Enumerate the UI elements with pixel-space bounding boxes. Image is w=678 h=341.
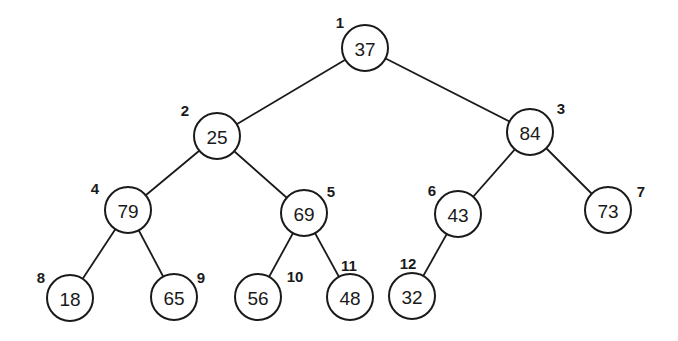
node-value: 32 [401,287,422,308]
tree-node-6: 436 [428,182,481,238]
tree-node-3: 843 [507,100,565,156]
node-value: 48 [339,288,360,309]
node-index-label: 3 [557,100,565,117]
node-value: 18 [59,289,80,310]
node-index-label: 8 [37,269,45,286]
node-index-label: 4 [91,180,100,197]
tree-edge [365,48,530,132]
node-index-label: 5 [327,183,335,200]
node-index-label: 6 [428,182,436,199]
tree-svg: 371252843794695436737188659561048113212 [0,0,678,341]
node-value: 65 [163,288,184,309]
node-index-label: 12 [400,255,417,272]
node-value: 79 [117,201,138,222]
tree-node-1: 371 [336,14,388,72]
tree-edge [217,48,365,136]
node-value: 73 [597,201,618,222]
node-index-label: 1 [336,14,344,31]
edges-layer [70,48,608,298]
tree-node-2: 252 [181,102,240,160]
tree-node-7: 737 [585,183,645,234]
binary-tree-diagram: 371252843794695436737188659561048113212 [0,0,678,341]
node-index-label: 11 [341,257,357,274]
node-value: 43 [447,205,468,226]
tree-node-5: 695 [281,183,335,237]
nodes-layer: 371252843794695436737188659561048113212 [37,14,645,322]
node-value: 69 [293,204,314,225]
node-value: 25 [206,127,227,148]
node-value: 84 [519,123,541,144]
tree-node-4: 794 [91,180,151,234]
node-index-label: 2 [181,102,189,119]
node-index-label: 10 [287,268,304,285]
node-index-label: 9 [197,269,205,286]
node-value: 56 [247,288,268,309]
node-value: 37 [354,39,375,60]
node-index-label: 7 [637,183,645,200]
tree-node-12: 3212 [389,255,435,320]
tree-node-9: 659 [151,269,205,321]
